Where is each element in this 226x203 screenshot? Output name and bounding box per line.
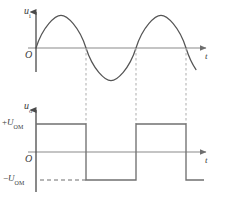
lower-y-axis-label: uo [24, 101, 32, 114]
dashed-guide-group [86, 48, 186, 124]
waveform-svg-canvas [0, 0, 226, 203]
positive-level-symbol: U [7, 117, 14, 127]
waveform-figure: ui O t uo +UOM O −UOM t [0, 0, 226, 203]
upper-origin-label: O [25, 50, 32, 60]
negative-level-label: −UOM [3, 174, 24, 185]
lower-plot-group [28, 110, 206, 192]
positive-level-sub: OM [14, 124, 24, 130]
lower-y-axis-label-sub: o [29, 107, 32, 114]
lower-x-axis-label: t [205, 156, 208, 165]
upper-plot-group [28, 12, 206, 81]
negative-level-sub: OM [15, 180, 25, 186]
lower-origin-label: O [25, 154, 32, 164]
positive-level-label: +UOM [2, 118, 23, 129]
upper-y-axis-label: ui [24, 6, 31, 19]
upper-y-axis-label-sub: i [29, 12, 31, 19]
upper-x-axis-label: t [205, 52, 208, 61]
negative-level-symbol: U [8, 173, 15, 183]
